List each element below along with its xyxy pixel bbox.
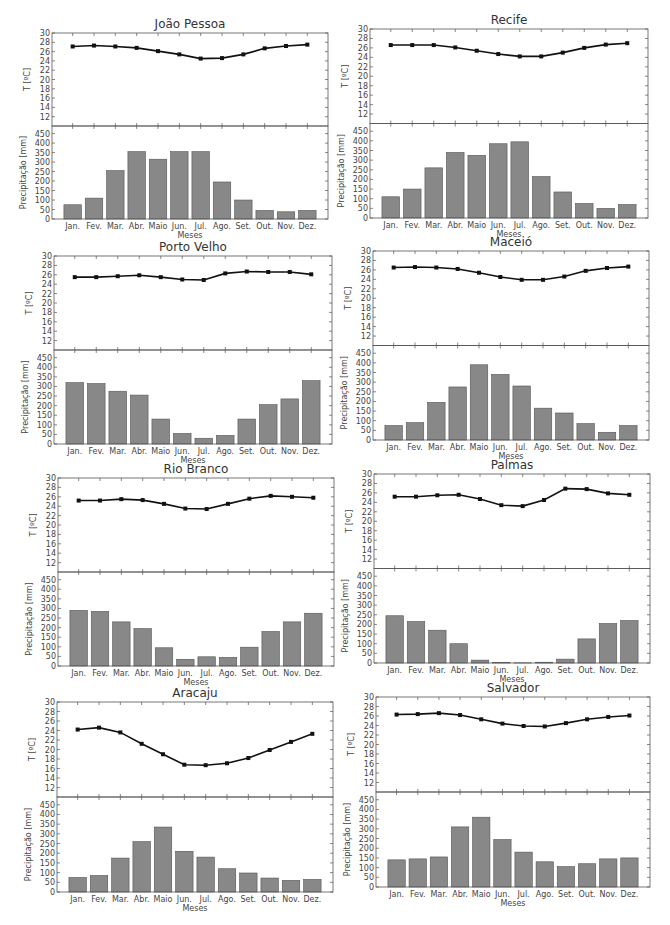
svg-text:Mar.: Mar.: [109, 447, 126, 456]
svg-text:16: 16: [361, 313, 371, 322]
precip-bar: [130, 395, 148, 444]
svg-text:400: 400: [35, 139, 50, 148]
svg-text:Ago.: Ago.: [213, 222, 231, 231]
climate-chart-aracaju: Aracaju121416182022242628300501001502002…: [57, 702, 333, 892]
precip-bar: [154, 827, 171, 892]
svg-text:Out.: Out.: [262, 669, 279, 678]
svg-text:14: 14: [358, 101, 368, 110]
svg-text:Maio: Maio: [470, 443, 489, 452]
precip-bar: [382, 197, 400, 218]
svg-text:Nov.: Nov.: [599, 666, 617, 675]
precip-bar: [87, 384, 105, 444]
svg-text:200: 200: [359, 844, 374, 853]
svg-text:28: 28: [364, 703, 374, 712]
svg-text:350: 350: [41, 595, 56, 604]
svg-text:20: 20: [42, 299, 52, 308]
svg-text:Ago.: Ago.: [535, 666, 553, 675]
svg-text:Out.: Out.: [577, 443, 594, 452]
svg-text:24: 24: [362, 498, 372, 507]
svg-text:Maio: Maio: [472, 890, 491, 899]
precip-bar: [536, 862, 553, 887]
chart-title: Rio Branco: [164, 462, 229, 476]
precip-bar: [128, 152, 145, 219]
svg-text:12: 12: [46, 559, 56, 568]
precip-bar: [66, 383, 84, 444]
precip-bar: [620, 426, 637, 440]
svg-text:Out.: Out.: [261, 895, 278, 904]
svg-text:Jun.: Jun.: [174, 447, 190, 456]
y-axis-label-precip: Precipitação [mm]: [337, 134, 346, 207]
svg-text:Mar.: Mar.: [112, 895, 129, 904]
precip-bar: [473, 817, 490, 887]
climate-chart-salvador: Salvador12141618202224262830050100150200…: [376, 697, 650, 887]
svg-text:Jul.: Jul.: [513, 221, 526, 230]
svg-text:400: 400: [41, 585, 56, 594]
y-axis-label-precip: Precipitação [mm]: [340, 356, 349, 429]
svg-text:Abr.: Abr.: [452, 890, 468, 899]
y-axis-label-temp: T [ºC]: [345, 510, 354, 534]
svg-text:12: 12: [40, 113, 50, 122]
svg-text:Fev.: Fev.: [404, 221, 420, 230]
svg-text:20: 20: [364, 741, 374, 750]
chart-title: Recife: [491, 13, 528, 27]
precip-bar: [513, 386, 530, 440]
svg-text:50: 50: [46, 652, 56, 661]
precip-bar: [171, 152, 188, 219]
precip-bar: [85, 198, 102, 219]
svg-text:150: 150: [353, 185, 368, 194]
svg-text:16: 16: [42, 318, 52, 327]
svg-text:Out.: Out.: [578, 666, 595, 675]
svg-text:Jul.: Jul.: [200, 669, 213, 678]
svg-text:0: 0: [363, 214, 368, 223]
y-axis-label-precip: Precipitação [mm]: [24, 808, 33, 881]
y-axis-label-temp: T [ºC]: [23, 68, 32, 92]
y-axis-label-precip: Precipitação [mm]: [25, 582, 34, 655]
svg-text:28: 28: [40, 38, 50, 47]
precip-bar: [451, 827, 468, 887]
svg-text:Maio: Maio: [154, 895, 173, 904]
svg-text:16: 16: [358, 91, 368, 100]
svg-text:Nov.: Nov.: [597, 221, 615, 230]
precip-bar: [386, 616, 403, 663]
svg-text:30: 30: [358, 25, 368, 34]
precip-bar: [556, 413, 573, 440]
precip-bar: [406, 423, 423, 440]
svg-text:30: 30: [42, 252, 52, 261]
svg-text:30: 30: [40, 29, 50, 38]
svg-text:100: 100: [357, 640, 372, 649]
svg-text:Set.: Set.: [239, 447, 255, 456]
svg-text:Jun.: Jun.: [492, 443, 508, 452]
svg-text:350: 350: [35, 149, 50, 158]
precip-bar: [430, 857, 447, 887]
svg-text:20: 20: [46, 521, 56, 530]
svg-text:0: 0: [50, 888, 55, 897]
precip-bar: [557, 659, 574, 663]
svg-text:28: 28: [362, 479, 372, 488]
svg-text:Abr.: Abr.: [451, 666, 467, 675]
svg-text:28: 28: [46, 483, 56, 492]
svg-text:14: 14: [362, 546, 372, 555]
chart-title: Aracaju: [172, 686, 217, 700]
svg-text:Abr.: Abr.: [447, 221, 463, 230]
svg-text:22: 22: [46, 512, 56, 521]
svg-text:400: 400: [359, 805, 374, 814]
x-axis-label: Meses: [182, 904, 207, 913]
svg-text:16: 16: [45, 765, 55, 774]
svg-text:350: 350: [37, 373, 52, 382]
svg-text:14: 14: [40, 103, 50, 112]
svg-text:24: 24: [40, 57, 50, 66]
svg-text:50: 50: [361, 426, 371, 435]
svg-text:Fev.: Fev.: [86, 222, 102, 231]
svg-text:Ago.: Ago.: [216, 447, 234, 456]
svg-text:14: 14: [364, 769, 374, 778]
precip-bar: [109, 391, 127, 444]
svg-text:Out.: Out.: [579, 890, 596, 899]
svg-text:Fev.: Fev.: [407, 443, 423, 452]
svg-text:22: 22: [42, 290, 52, 299]
svg-text:18: 18: [362, 527, 372, 536]
precip-bar: [219, 657, 236, 666]
svg-text:Set.: Set.: [556, 443, 572, 452]
precip-bar: [261, 878, 278, 892]
svg-text:Jan.: Jan.: [382, 221, 398, 230]
svg-text:Mar.: Mar.: [429, 666, 446, 675]
